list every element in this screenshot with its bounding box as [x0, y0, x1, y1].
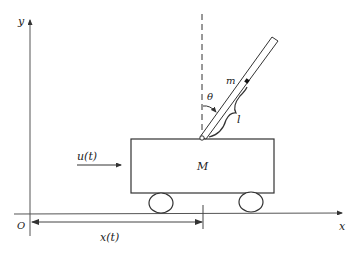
length-brace: [209, 87, 247, 137]
y-axis-label: y: [17, 15, 25, 28]
x-axis: [14, 213, 342, 214]
x-axis-label: x: [339, 220, 346, 233]
pivot-joint: [200, 136, 204, 140]
angle-label: θ: [207, 91, 213, 102]
wheel-right: [239, 192, 263, 212]
wheel-left: [149, 193, 173, 213]
cart-pole-diagram: y x O x(t) M u(t) m θ l: [0, 0, 355, 253]
angle-arc: [203, 106, 216, 112]
cart-mass-label: M: [196, 160, 209, 173]
pendulum-mass-label: m: [226, 75, 235, 86]
force-label: u(t): [77, 150, 97, 163]
position-label: x(t): [100, 231, 119, 244]
origin-label: O: [17, 220, 25, 231]
length-label: l: [237, 113, 241, 126]
